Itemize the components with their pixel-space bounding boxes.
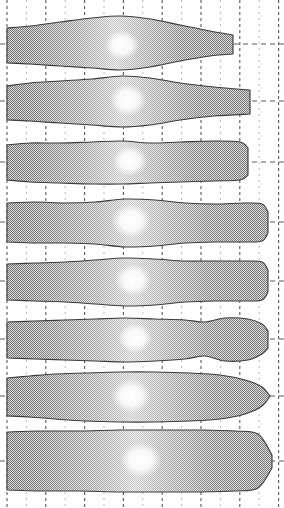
blade-profile-figure bbox=[0, 0, 284, 508]
profile-shape bbox=[7, 430, 272, 492]
profile-shape bbox=[7, 372, 270, 422]
profile-shape bbox=[7, 318, 268, 362]
profile-highlight bbox=[113, 146, 148, 176]
profile-shape bbox=[7, 199, 268, 247]
profile-highlight bbox=[118, 323, 153, 353]
profile-highlight bbox=[111, 204, 150, 238]
profile-shape bbox=[7, 258, 268, 306]
profile-highlight bbox=[105, 30, 140, 60]
profile-shape bbox=[7, 141, 248, 184]
profile-highlight bbox=[120, 442, 161, 478]
profile-highlight bbox=[110, 84, 147, 116]
profile-highlight bbox=[111, 379, 150, 413]
profile-plot-canvas bbox=[0, 0, 284, 508]
profile-highlight bbox=[115, 264, 152, 296]
